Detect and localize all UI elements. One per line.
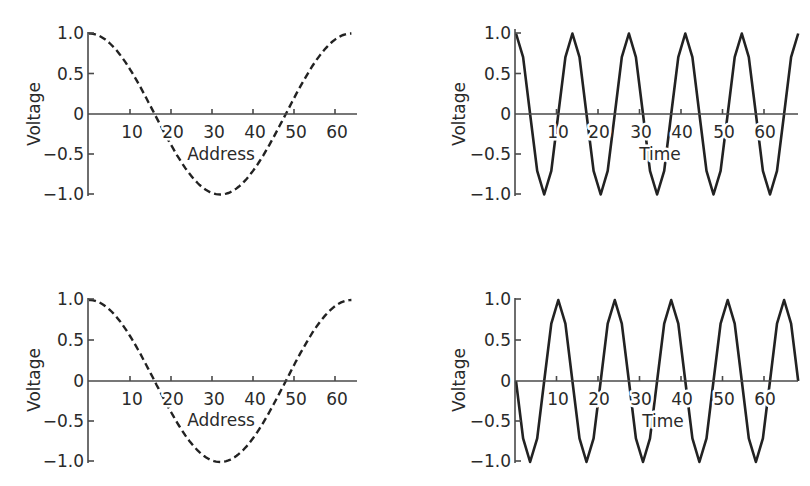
x-tick-labels: 10 20 30 40 50 60	[121, 389, 348, 409]
figure: 1.0 0.5 0 −0.5 −1.0 10 20 30 40 50 60 Ad…	[0, 0, 810, 486]
x-tick-labels: 10 20 30 40 50 60	[121, 122, 348, 142]
y-tick-label: −0.5	[43, 411, 84, 431]
x-tick-label: 50	[285, 389, 307, 409]
x-tick-label: 30	[203, 122, 225, 142]
y-tick-label: −1.0	[470, 451, 511, 471]
panel-top-left: 1.0 0.5 0 −0.5 −1.0 10 20 30 40 50 60 Ad…	[24, 23, 357, 204]
x-tick-label: 60	[326, 389, 348, 409]
x-tick-label: 30	[630, 122, 652, 142]
x-tick-label: 10	[121, 122, 143, 142]
x-tick-label: 60	[326, 122, 348, 142]
y-ticks	[515, 299, 521, 461]
y-tick-label: 1.0	[57, 289, 84, 309]
x-tick-label: 10	[121, 389, 143, 409]
x-tick-label: 20	[588, 389, 610, 409]
y-axis-title: Voltage	[24, 82, 44, 146]
y-ticks	[88, 299, 94, 461]
x-tick-label: 10	[547, 389, 569, 409]
panel-bottom-right: 1.0 0.5 0 −0.5 −1.0 10 20 30 40 50 60 Ti…	[449, 289, 798, 471]
y-tick-label: 0	[500, 371, 511, 391]
y-tick-label: 0.5	[57, 64, 84, 84]
y-tick-label: 1.0	[484, 23, 511, 43]
x-tick-label: 50	[285, 122, 307, 142]
x-tick-label: 20	[162, 389, 184, 409]
y-tick-label: 0	[73, 371, 84, 391]
x-axis-title: Time	[641, 411, 684, 431]
y-tick-label: 0.5	[57, 330, 84, 350]
x-tick-label: 40	[244, 389, 266, 409]
x-axis-title: Address	[187, 144, 255, 164]
x-tick-label: 30	[630, 389, 652, 409]
x-tick-labels: 10 20 30 40 50 60	[547, 122, 776, 142]
x-tick-label: 60	[754, 122, 776, 142]
x-tick-label: 40	[671, 122, 693, 142]
x-tick-labels: 10 20 30 40 50 60	[547, 389, 776, 409]
y-axis-title: Voltage	[449, 348, 469, 412]
y-tick-label: 1.0	[57, 23, 84, 43]
y-axis-title: Voltage	[449, 82, 469, 146]
x-tick-label: 50	[713, 122, 735, 142]
panel-top-right: 1.0 0.5 0 −0.5 −1.0 10 20 30 40 50 60 Ti…	[449, 23, 798, 204]
y-tick-label: 0.5	[484, 330, 511, 350]
y-tick-label: −1.0	[43, 184, 84, 204]
y-tick-label: 0.5	[484, 64, 511, 84]
y-tick-label: 0	[500, 104, 511, 124]
x-tick-label: 20	[162, 122, 184, 142]
y-tick-label: −0.5	[43, 144, 84, 164]
x-tick-label: 10	[547, 122, 569, 142]
x-tick-label: 50	[713, 389, 735, 409]
y-tick-label: −0.5	[470, 411, 511, 431]
y-tick-labels: 1.0 0.5 0 −0.5 −1.0	[43, 23, 84, 204]
x-axis-title: Address	[187, 410, 255, 430]
y-tick-label: −1.0	[43, 451, 84, 471]
y-tick-label: −1.0	[470, 184, 511, 204]
y-tick-label: 0	[73, 104, 84, 124]
x-tick-label: 40	[244, 122, 266, 142]
x-tick-label: 20	[588, 122, 610, 142]
y-tick-labels: 1.0 0.5 0 −0.5 −1.0	[470, 289, 511, 471]
x-axis-title: Time	[638, 144, 681, 164]
y-tick-labels: 1.0 0.5 0 −0.5 −1.0	[470, 23, 511, 204]
x-tick-label: 60	[754, 389, 776, 409]
y-tick-label: −0.5	[470, 144, 511, 164]
panel-bottom-left: 1.0 0.5 0 −0.5 −1.0 10 20 30 40 50 60 Ad…	[24, 289, 357, 471]
x-tick-label: 30	[203, 389, 225, 409]
y-tick-label: 1.0	[484, 289, 511, 309]
y-tick-labels: 1.0 0.5 0 −0.5 −1.0	[43, 289, 84, 471]
y-axis-title: Voltage	[24, 348, 44, 412]
x-tick-label: 40	[671, 389, 693, 409]
